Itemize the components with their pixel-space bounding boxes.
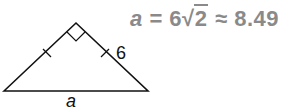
equation-variable: a (130, 6, 143, 31)
equals-sign: = (149, 6, 162, 31)
triangle (4, 23, 148, 91)
radical-symbol: √ (182, 6, 195, 31)
equation: a = 6√2 ≈ 8.49 (130, 6, 279, 32)
approx-value: 8.49 (234, 6, 279, 31)
radicand: 2 (194, 4, 209, 31)
leg-length-label: 6 (116, 43, 126, 64)
hypotenuse-label: a (66, 91, 76, 112)
square-root: √2 (182, 6, 208, 32)
approx-sign: ≈ (215, 6, 228, 31)
coefficient: 6 (169, 6, 182, 31)
right-angle-mark (67, 32, 85, 41)
